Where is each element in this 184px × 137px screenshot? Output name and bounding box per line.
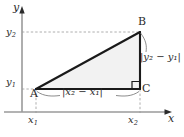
x2-base: x [128, 114, 134, 125]
y1-sub: 1 [12, 81, 16, 89]
geometry-figure: y x y2 y1 x1 x2 A B C |x₂ − x₁| |y₂ − y₁… [0, 0, 184, 137]
vertex-label-c: C [142, 83, 150, 94]
x-axis-label: x [168, 113, 174, 124]
x-tick-label-x1: x1 [28, 115, 38, 125]
x1-base: x [28, 114, 34, 125]
x1-sub: 1 [34, 119, 38, 127]
measurement-label-vertical-leg: |y₂ − y₁| [140, 52, 181, 62]
x-tick-label-x2: x2 [128, 115, 138, 125]
vertex-label-a: A [30, 88, 38, 99]
x2-sub: 2 [134, 119, 138, 127]
y-tick-label-y2: y2 [6, 27, 16, 37]
y1-base: y [6, 76, 12, 87]
measurement-label-horizontal-leg: |x₂ − x₁| [62, 87, 103, 97]
vertex-label-b: B [138, 16, 146, 27]
leader-line-dy [141, 33, 147, 52]
y-axis-label: y [13, 2, 19, 13]
y-tick-label-y1: y1 [6, 77, 16, 87]
y-axis-arrow-icon [19, 6, 24, 14]
y2-sub: 2 [12, 31, 16, 39]
y2-base: y [6, 26, 12, 37]
